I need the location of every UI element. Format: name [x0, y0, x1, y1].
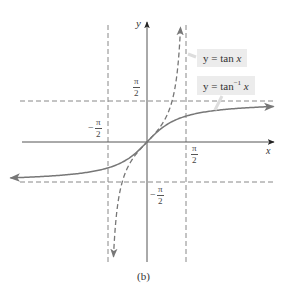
x-tick-neg-pi-over-2: π 2 — [95, 118, 102, 139]
x-tick-neg-sign: − — [88, 122, 94, 133]
x-axis-label: x — [266, 146, 270, 156]
figure-caption: (b) — [137, 270, 150, 282]
legend-leader-arctan — [215, 96, 222, 110]
y-tick-neg-sign: − — [150, 189, 156, 200]
tan-arctan-diagram — [0, 0, 288, 295]
numerator: π — [157, 185, 164, 196]
y-tick-pi-over-2: π 2 — [133, 77, 140, 98]
legend-arctan-var: x — [241, 80, 249, 92]
denominator: 2 — [192, 155, 197, 165]
legend-tan: y = tan x — [197, 49, 247, 67]
y-tick-neg-pi-over-2: π 2 — [157, 185, 164, 206]
x-tick-pi-over-2: π 2 — [191, 144, 198, 165]
numerator: π — [191, 144, 198, 155]
legend-arctan: y = tan−1 x — [197, 76, 255, 95]
y-axis-label: y — [136, 18, 141, 29]
legend-tan-text: y = tan — [203, 52, 236, 64]
denominator: 2 — [96, 129, 101, 139]
numerator: π — [95, 118, 102, 129]
legend-arctan-text: y = tan — [203, 80, 234, 92]
legend-tan-var: x — [236, 52, 241, 64]
legend-leader-tan — [188, 54, 196, 57]
denominator: 2 — [158, 196, 163, 206]
denominator: 2 — [134, 88, 139, 98]
legend-arctan-sup: −1 — [234, 79, 241, 87]
numerator: π — [133, 77, 140, 88]
